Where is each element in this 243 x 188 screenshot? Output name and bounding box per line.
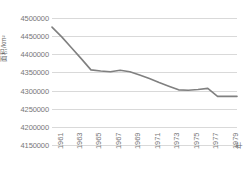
x-axis-tick-label: 1969 [133, 133, 142, 149]
y-axis-tick-label: 4150000 [21, 141, 50, 150]
x-axis-tick-label: 1971 [153, 133, 162, 149]
x-axis-tick-label: 1961 [56, 133, 65, 149]
y-axis-ticks: 4500000445000044000004350000430000042500… [0, 0, 49, 188]
x-axis-tick-label: 1977 [211, 133, 220, 149]
x-axis-tick-label: 1963 [75, 133, 84, 149]
y-axis-tick-label: 4300000 [21, 86, 50, 95]
x-axis-tick-label: 1967 [114, 133, 123, 149]
data-series-line [52, 18, 237, 145]
y-axis-tick-label: 4200000 [21, 122, 50, 131]
y-axis-tick-label: 4450000 [21, 32, 50, 41]
series-polyline [52, 27, 237, 96]
y-axis-tick-label: 4350000 [21, 68, 50, 77]
y-axis-tick-label: 4250000 [21, 104, 50, 113]
x-axis-tick-label: 1973 [172, 133, 181, 149]
x-axis-title: 年 [233, 142, 243, 149]
y-axis-tick-label: 4400000 [21, 50, 50, 59]
x-axis-tick-label: 1975 [192, 133, 201, 149]
plot-area [52, 18, 237, 145]
line-chart: 面积/km² 450000044500004400000435000043000… [0, 0, 243, 188]
y-axis-tick-label: 4500000 [21, 14, 50, 23]
x-axis-tick-label: 1965 [94, 133, 103, 149]
